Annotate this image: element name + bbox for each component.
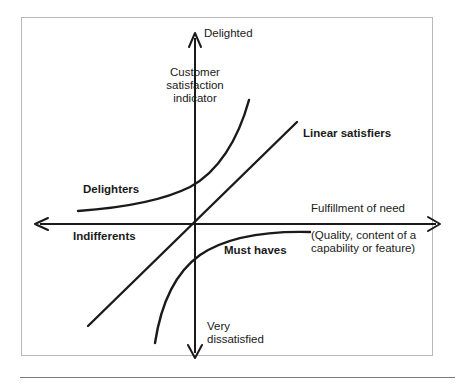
bottom-horizontal-rule <box>20 377 455 378</box>
x-axis-right-sublabel: (Quality, content of a capability or fea… <box>311 229 435 255</box>
kano-model-figure: Delighted Customer satisfaction indicato… <box>0 0 466 384</box>
delighters-label: Delighters <box>83 183 139 196</box>
x-axis-right-label: Fulfillment of need <box>311 202 405 215</box>
linear-satisfiers-label: Linear satisfiers <box>303 127 391 140</box>
y-axis-bottom-label: Very dissatisfied <box>207 320 264 346</box>
y-axis-top-label: Delighted <box>204 27 253 40</box>
indifferents-label: Indifferents <box>73 230 136 243</box>
y-axis-name-label: Customer satisfaction indicator <box>139 66 251 105</box>
must-haves-label: Must haves <box>224 244 287 257</box>
